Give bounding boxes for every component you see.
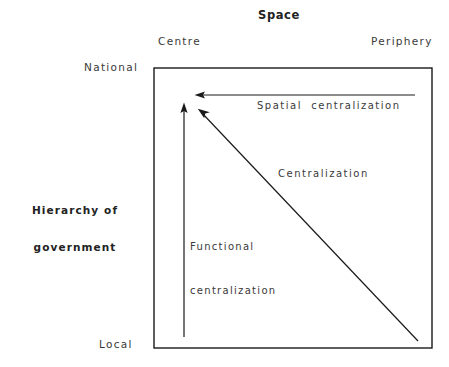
side-axis-title-line2: government <box>12 241 138 253</box>
x-axis-left-label: Centre <box>158 35 201 47</box>
side-axis-title-line1: Hierarchy of <box>12 204 138 216</box>
x-axis-right-label: Periphery <box>371 35 433 47</box>
side-axis-title: Hierarchy of government <box>12 179 138 278</box>
spatial-centralization-label: Spatial centralization <box>257 100 401 112</box>
spatial-centralization-arrow <box>195 91 416 98</box>
diagram-canvas: Space Centre Periphery National Local Hi… <box>0 0 449 367</box>
functional-centralization-label-line1: Functional <box>190 240 276 255</box>
page-title: Space <box>258 9 300 23</box>
y-axis-top-label: National <box>84 61 138 73</box>
functional-centralization-label: Functional centralization <box>190 211 276 327</box>
centralization-label: Centralization <box>278 168 369 180</box>
functional-centralization-arrow <box>180 103 187 338</box>
y-axis-bottom-label: Local <box>99 338 133 350</box>
functional-centralization-label-line2: centralization <box>190 284 276 299</box>
